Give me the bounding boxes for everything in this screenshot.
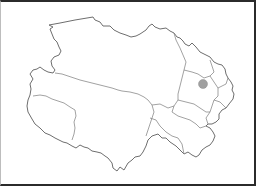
boundary-east-e (218, 78, 228, 88)
boundary-central (122, 91, 154, 136)
province-map (0, 0, 264, 191)
boundary-east-a (152, 104, 174, 108)
boundary-east-b (184, 60, 214, 78)
boundary-west-north (55, 73, 122, 91)
boundary-east-f (214, 100, 226, 108)
location-marker (199, 80, 208, 89)
boundary-east-c (206, 76, 218, 124)
boundary-southwest-region (33, 95, 76, 140)
boundary-southeast (172, 112, 206, 128)
boundary-east-d (178, 100, 210, 112)
province-outline (27, 17, 234, 171)
